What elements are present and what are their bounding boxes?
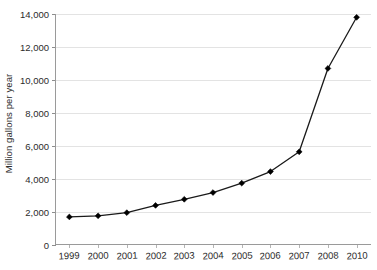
x-axis-tick-label: 2000 — [87, 249, 109, 261]
data-point-marker — [95, 213, 101, 219]
data-point-marker — [325, 66, 331, 72]
line-chart: Million gallons per year 02,0004,0006,00… — [0, 0, 377, 270]
data-point-marker — [354, 14, 360, 20]
y-axis-tick-label: 12,000 — [20, 42, 49, 53]
x-axis-tick-label: 2002 — [145, 249, 167, 261]
y-axis-tick-label: 0 — [44, 240, 49, 251]
data-point-marker — [181, 196, 187, 202]
y-axis-tick-label: 10,000 — [20, 75, 49, 86]
data-point-marker — [66, 214, 72, 220]
x-axis-tick-labels: 1999200020012002200320042005200620072008… — [55, 248, 371, 270]
x-axis-tick-label: 2003 — [173, 249, 195, 261]
y-axis-tick-label: 4,000 — [25, 174, 49, 185]
x-axis-tick-label: 2008 — [317, 249, 339, 261]
y-axis-tick-label: 6,000 — [25, 141, 49, 152]
y-axis-tick-labels: 02,0004,0006,0008,00010,00012,00014,000 — [14, 0, 52, 246]
data-point-marker — [239, 180, 245, 186]
y-axis-tick-label: 8,000 — [25, 108, 49, 119]
x-axis-tick-label: 1999 — [59, 249, 81, 261]
data-series — [55, 14, 371, 245]
x-axis-tick-label: 2005 — [231, 249, 253, 261]
x-axis-tick-label: 2004 — [202, 249, 224, 261]
y-axis-tick-label: 2,000 — [25, 207, 49, 218]
series-line — [69, 17, 356, 217]
x-axis-tick-label: 2010 — [346, 249, 368, 261]
y-axis-tick-mark — [52, 245, 56, 246]
data-point-marker — [153, 203, 159, 209]
data-point-marker — [210, 190, 216, 196]
x-axis-tick-label: 2001 — [116, 249, 138, 261]
plot-area — [55, 14, 371, 245]
x-axis-tick-label: 2007 — [288, 249, 310, 261]
x-axis-tick-label: 2006 — [260, 249, 282, 261]
y-axis-title-text: Million gallons per year — [4, 73, 15, 173]
data-point-marker — [124, 210, 130, 216]
y-axis-tick-label: 14,000 — [20, 9, 49, 20]
